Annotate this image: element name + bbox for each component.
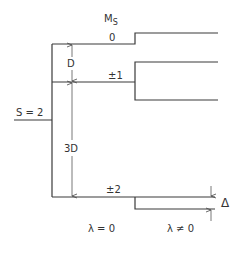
spacing-d-label: D	[67, 58, 75, 69]
ms-header: MS	[104, 13, 118, 27]
level-pm1-label: ±1	[108, 70, 123, 81]
column-lambda-zero: λ = 0	[88, 223, 115, 234]
level-0-line	[52, 33, 218, 44]
state-label: S = 2	[16, 107, 43, 118]
level-pm1-split	[135, 62, 218, 100]
level-pm2-label: ±2	[106, 184, 121, 195]
level-0-label: 0	[109, 32, 115, 43]
energy-level-diagram: MS S = 2 0 ±1 ±2 D 3D Δ λ = 0 λ ≠ 0	[0, 0, 244, 261]
level-pm2-split	[135, 197, 215, 209]
delta-label: Δ	[221, 196, 230, 210]
spacing-3d-label: 3D	[64, 143, 78, 154]
column-lambda-nonzero: λ ≠ 0	[167, 223, 194, 234]
